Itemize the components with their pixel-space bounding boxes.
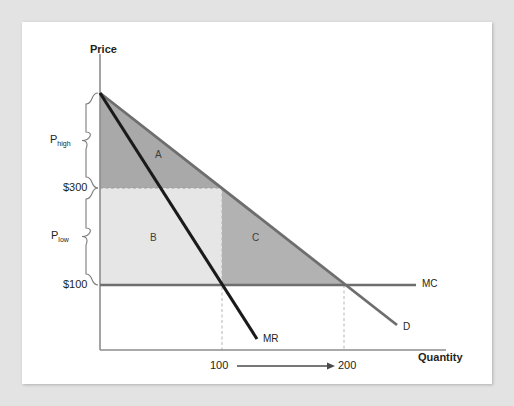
region-c-label: C — [252, 233, 259, 243]
quantity-span-arrowhead — [327, 363, 335, 370]
price-tick-300: $300 — [63, 182, 87, 193]
screenshot-root: Price Quantity $300 $100 100 200 Phigh P… — [0, 0, 514, 406]
price-tick-100: $100 — [63, 279, 87, 290]
region-a-label: A — [155, 150, 162, 160]
p-low-subscript: low — [58, 236, 69, 243]
region-b-label: B — [150, 233, 157, 243]
region-b-shape — [100, 188, 222, 285]
diagram-card: Price Quantity $300 $100 100 200 Phigh P… — [22, 22, 492, 384]
p-high-brace — [82, 93, 98, 188]
x-axis-title: Quantity — [418, 352, 463, 363]
mr-curve-label: MR — [263, 334, 279, 344]
p-low-label: Plow — [51, 230, 69, 243]
quantity-tick-100: 100 — [210, 360, 228, 371]
economics-diagram-svg — [22, 22, 492, 384]
p-low-brace — [82, 188, 98, 285]
y-axis-title: Price — [90, 44, 117, 55]
demand-curve-label: D — [403, 322, 410, 332]
quantity-tick-200: 200 — [338, 360, 356, 371]
p-high-label: Phigh — [50, 134, 71, 147]
mc-curve-label: MC — [422, 279, 438, 289]
p-high-subscript: high — [57, 140, 70, 147]
